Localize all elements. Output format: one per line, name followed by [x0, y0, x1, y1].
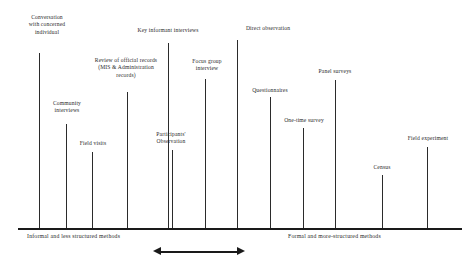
- method-tick: [127, 92, 128, 228]
- method-label: One-time survey: [270, 117, 338, 124]
- axis-right-end-label: Formal and more-structured methods: [288, 232, 381, 240]
- method-tick: [237, 40, 238, 228]
- double-headed-arrow: [153, 247, 245, 257]
- method-label: Census: [360, 164, 404, 171]
- method-label: Field visits: [67, 140, 119, 147]
- method-tick: [205, 79, 206, 228]
- method-label: Key informant interviews: [112, 27, 224, 34]
- method-tick: [335, 80, 336, 228]
- arrow-shaft: [158, 251, 240, 253]
- method-label: Review of official records (MIS & Admini…: [73, 57, 179, 79]
- method-tick: [427, 147, 428, 228]
- diagram-canvas: Conversation with concerned individualCo…: [0, 0, 471, 270]
- method-label: Conversation with concerned individual: [14, 14, 80, 36]
- method-tick: [92, 152, 93, 228]
- method-tick: [39, 53, 40, 228]
- method-label: Panel surveys: [304, 68, 366, 75]
- method-label: Community interviews: [38, 100, 96, 115]
- method-tick: [303, 128, 304, 228]
- method-tick: [382, 175, 383, 228]
- method-label: Questionnaires: [237, 87, 303, 94]
- continuum-axis-line: [18, 228, 462, 230]
- method-tick: [172, 150, 173, 228]
- method-label: Field experiment: [394, 135, 462, 142]
- method-label: Direct observation: [228, 25, 308, 32]
- arrow-head-right-icon: [237, 247, 245, 255]
- axis-left-end-label: Informal and less structured methods: [27, 232, 120, 240]
- method-label: Participants' Observation: [140, 131, 202, 146]
- method-label: Focus group interview: [178, 58, 236, 73]
